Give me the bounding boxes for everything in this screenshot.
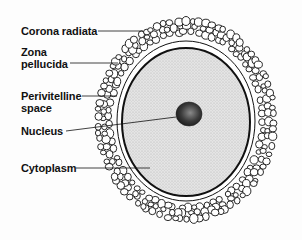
label-corona-radiata: Corona radiata <box>21 25 97 37</box>
label-cytoplasm: Cytoplasm <box>21 162 76 174</box>
label-nucleus: Nucleus <box>21 125 63 137</box>
nucleus-shape <box>176 102 202 126</box>
label-zona-pellucida: Zona pellucida <box>21 46 68 70</box>
label-perivitelline-space: Perivitelline space <box>21 90 81 114</box>
